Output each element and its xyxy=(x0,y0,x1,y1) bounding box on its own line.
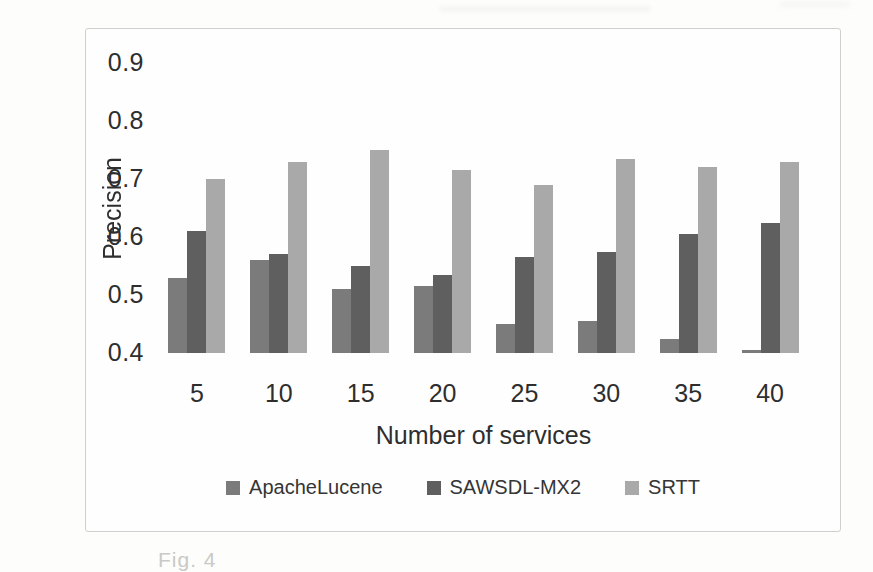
bar-apachelucene-10 xyxy=(250,260,269,353)
y-tick-label: 0.4 xyxy=(108,338,144,367)
legend-swatch-icon xyxy=(226,481,240,495)
bar-sawsdl-mx2-35 xyxy=(679,234,698,353)
bar-srtt-15 xyxy=(370,150,389,353)
bar-sawsdl-mx2-40 xyxy=(761,223,780,354)
bar-group-5 xyxy=(156,63,238,353)
scan-artifact xyxy=(440,6,650,12)
bar-group-40 xyxy=(729,63,811,353)
x-tick-label: 5 xyxy=(156,379,238,408)
bar-apachelucene-25 xyxy=(496,324,515,353)
bar-sawsdl-mx2-5 xyxy=(187,231,206,353)
y-axis-tick-labels: 0.90.80.70.60.50.4 xyxy=(86,63,146,353)
plot-area xyxy=(156,63,811,353)
legend-item-apachelucene: ApacheLucene xyxy=(226,476,382,499)
bar-group-10 xyxy=(238,63,320,353)
scan-artifact xyxy=(780,2,850,7)
gridline xyxy=(156,179,811,180)
y-tick-label: 0.8 xyxy=(108,106,144,135)
bar-group-25 xyxy=(484,63,566,353)
gridline xyxy=(156,63,811,64)
bar-sawsdl-mx2-30 xyxy=(597,252,616,354)
legend-item-srtt: SRTT xyxy=(625,476,700,499)
legend-label: SAWSDL-MX2 xyxy=(450,476,582,499)
x-tick-label: 25 xyxy=(484,379,566,408)
bar-apachelucene-15 xyxy=(332,289,351,353)
y-tick-label: 0.5 xyxy=(108,280,144,309)
bar-srtt-25 xyxy=(534,185,553,353)
legend-item-sawsdl-mx2: SAWSDL-MX2 xyxy=(427,476,582,499)
y-tick-label: 0.7 xyxy=(108,164,144,193)
gridline xyxy=(156,353,811,354)
gridline xyxy=(156,295,811,296)
bar-group-30 xyxy=(565,63,647,353)
gridline xyxy=(156,121,811,122)
x-tick-label: 40 xyxy=(729,379,811,408)
legend-label: SRTT xyxy=(648,476,700,499)
x-tick-label: 10 xyxy=(238,379,320,408)
figure-caption: Fig. 4 xyxy=(158,548,217,572)
bar-sawsdl-mx2-15 xyxy=(351,266,370,353)
chart-frame: Precision 0.90.80.70.60.50.4 51015202530… xyxy=(85,28,841,532)
bar-srtt-35 xyxy=(698,167,717,353)
bar-group-20 xyxy=(402,63,484,353)
bar-srtt-30 xyxy=(616,159,635,353)
bar-apachelucene-5 xyxy=(168,278,187,353)
bar-srtt-40 xyxy=(780,162,799,353)
x-tick-label: 35 xyxy=(647,379,729,408)
bar-sawsdl-mx2-10 xyxy=(269,254,288,353)
legend-label: ApacheLucene xyxy=(249,476,382,499)
x-axis-title: Number of services xyxy=(156,421,811,450)
bar-srtt-5 xyxy=(206,179,225,353)
bar-srtt-10 xyxy=(288,162,307,353)
bar-group-35 xyxy=(647,63,729,353)
chart-legend: ApacheLuceneSAWSDL-MX2SRTT xyxy=(86,476,840,499)
gridline xyxy=(156,237,811,238)
bar-apachelucene-20 xyxy=(414,286,433,353)
bar-sawsdl-mx2-25 xyxy=(515,257,534,353)
bar-apachelucene-35 xyxy=(660,339,679,354)
legend-swatch-icon xyxy=(625,481,639,495)
y-tick-label: 0.9 xyxy=(108,48,144,77)
bar-sawsdl-mx2-20 xyxy=(433,275,452,353)
bar-apachelucene-30 xyxy=(578,321,597,353)
legend-swatch-icon xyxy=(427,481,441,495)
x-tick-label: 30 xyxy=(565,379,647,408)
bar-series-container xyxy=(156,63,811,353)
y-tick-label: 0.6 xyxy=(108,222,144,251)
bar-group-15 xyxy=(320,63,402,353)
x-axis-tick-labels: 510152025303540 xyxy=(156,379,811,408)
x-tick-label: 15 xyxy=(320,379,402,408)
x-tick-label: 20 xyxy=(402,379,484,408)
bar-srtt-20 xyxy=(452,170,471,353)
